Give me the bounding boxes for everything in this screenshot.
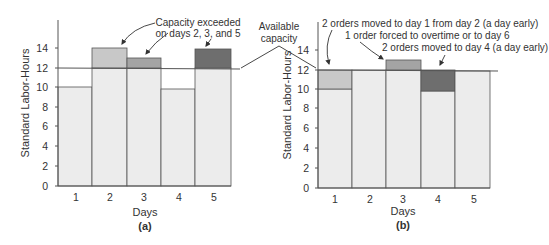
y-ticks-a: 0 2 4 6 8 10 12 14 [36,42,58,192]
svg-text:8: 8 [303,102,309,114]
svg-text:6: 6 [42,120,48,132]
x-ticks-b: 1 2 3 4 5 [332,193,477,205]
annotation-a-arrow-day5 [206,39,211,46]
bar-b-day4-moved [421,70,455,91]
svg-text:0: 0 [303,182,309,194]
svg-text:10: 10 [297,83,309,95]
svg-text:Available: Available [259,21,300,32]
bar-a-day3-base [127,68,161,186]
sublabel-a: (a) [138,220,152,232]
annotation-b-arrow-1 [327,30,332,64]
svg-text:1: 1 [332,193,338,205]
svg-text:3: 3 [141,191,147,203]
svg-text:8: 8 [42,101,48,113]
svg-text:4: 4 [176,191,182,203]
svg-text:capacity: capacity [261,33,298,44]
y-label-a: Standard Labor-Hours [19,48,31,157]
svg-text:2: 2 [107,191,113,203]
bar-b-day1-base [318,89,352,188]
bar-b-day4-base [421,91,455,188]
svg-text:3: 3 [400,193,406,205]
bar-a-day1 [58,87,92,186]
svg-text:1: 1 [73,191,79,203]
svg-text:2: 2 [303,162,309,174]
bar-b-day5 [455,71,490,188]
annotation-b-arrow-2 [360,42,383,59]
bar-b-day3-base [386,70,421,188]
bar-b-day3-over [386,60,421,70]
svg-text:5: 5 [211,191,217,203]
annotation-b-1: 2 orders moved to day 1 from day 2 (a da… [322,18,538,29]
chart-a: 0 2 4 6 8 10 12 14 1 2 3 4 5 Days (a) St… [19,17,241,232]
svg-text:4: 4 [303,142,309,154]
svg-text:2: 2 [367,193,373,205]
x-label-b: Days [390,205,416,217]
bar-b-day2 [352,70,386,188]
chart-b-bars [318,60,490,188]
svg-text:6: 6 [303,122,309,134]
svg-text:0: 0 [42,180,48,192]
svg-text:12: 12 [297,64,309,76]
svg-text:12: 12 [36,62,48,74]
bar-b-day1-moved [318,70,352,89]
bar-a-day3-over [127,58,161,68]
y-ticks-b: 0 2 4 6 8 10 12 14 [297,44,318,194]
x-ticks-a: 1 2 3 4 5 [73,191,217,203]
svg-text:14: 14 [297,44,309,56]
y-label-b: Standard Labor-Hours [281,50,293,159]
bar-a-day2-base [92,68,127,186]
chart-b: 0 2 4 6 8 10 12 14 1 2 3 4 5 Days (b) St… [281,18,548,231]
bar-a-day2-over [92,48,127,68]
annotation-b-2: 1 order forced to overtime or to day 6 [345,30,510,41]
svg-text:2: 2 [42,160,48,172]
annotation-b-arrow-3 [440,55,445,65]
bar-a-day4 [161,89,195,186]
svg-text:4: 4 [42,140,48,152]
sublabel-b: (b) [396,219,410,231]
svg-text:4: 4 [435,193,441,205]
svg-text:14: 14 [36,42,48,54]
svg-text:5: 5 [471,193,477,205]
annotation-b-3: 2 orders moved to day 4 (a day early) [382,42,548,53]
annotation-a-arrow-day2 [122,23,155,44]
svg-text:10: 10 [36,81,48,93]
annotation-a-line1: Capacity exceeded [155,17,240,28]
x-label-a: Days [132,206,158,218]
bar-a-day5-base [195,68,231,186]
annotation-a-line2: on days 2, 3, and 5 [155,28,241,39]
bar-a-day5-over [195,49,231,68]
figure: 0 2 4 6 8 10 12 14 1 2 3 4 5 Days (a) St… [0,0,549,245]
